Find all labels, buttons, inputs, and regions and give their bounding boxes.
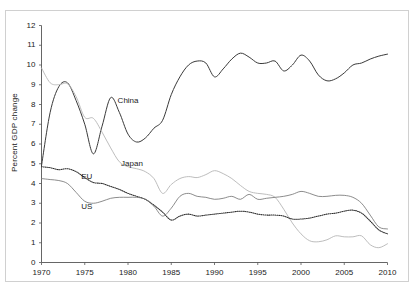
series-label-china: China (118, 96, 139, 105)
y-tick-label: 7 (20, 119, 36, 128)
x-tick-label: 2000 (284, 268, 318, 277)
y-tick-label: 1 (20, 238, 36, 247)
series-label-eu: EU (81, 172, 92, 181)
chart-figure: Percent GDP change 1211109876543210 1970… (0, 0, 413, 286)
y-tick-label: 3 (20, 198, 36, 207)
y-tick-label: 9 (20, 80, 36, 89)
y-tick-label: 0 (20, 258, 36, 267)
y-tick-label: 10 (20, 60, 36, 69)
x-tick-label: 1990 (198, 268, 232, 277)
x-tick-label: 1995 (241, 268, 275, 277)
series-group (42, 53, 388, 248)
y-tick-label: 5 (20, 159, 36, 168)
x-tick-label: 1970 (25, 268, 59, 277)
x-tick-label: 2010 (371, 268, 405, 277)
series-line-eu (42, 167, 388, 234)
y-tick-label: 8 (20, 100, 36, 109)
line-chart-plot (0, 0, 413, 286)
series-label-japan: Japan (121, 159, 143, 168)
x-tick-label: 2005 (327, 268, 361, 277)
series-line-japan (42, 68, 388, 248)
series-line-china (42, 53, 388, 166)
axes-group (39, 26, 388, 266)
y-axis-title: Percent GDP change (10, 88, 19, 178)
y-tick-label: 6 (20, 139, 36, 148)
series-line-us (42, 179, 388, 229)
y-tick-label: 12 (20, 21, 36, 30)
y-tick-label: 4 (20, 179, 36, 188)
x-tick-label: 1975 (68, 268, 102, 277)
x-tick-label: 1985 (154, 268, 188, 277)
x-tick-label: 1980 (111, 268, 145, 277)
series-label-us: US (81, 202, 92, 211)
y-tick-label: 11 (20, 40, 36, 49)
y-tick-label: 2 (20, 218, 36, 227)
